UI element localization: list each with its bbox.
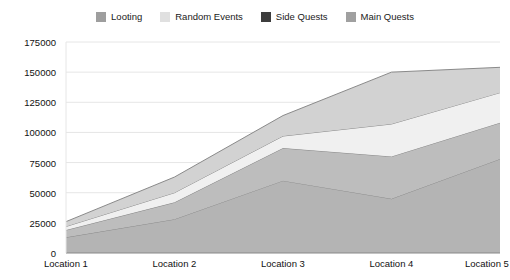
x-tick-label-3: Location 3: [261, 258, 305, 269]
x-tick-label-2: Location 2: [153, 258, 197, 269]
x-tick-label-1: Location 1: [44, 258, 88, 269]
x-tick-label-5: Location 5: [465, 258, 509, 269]
x-tick-label-4: Location 4: [370, 258, 414, 269]
x-axis-tick-labels: Location 1Location 2Location 3Location 4…: [0, 0, 510, 280]
stacked-area-chart: Looting Random Events Side Quests Main Q…: [0, 0, 510, 280]
